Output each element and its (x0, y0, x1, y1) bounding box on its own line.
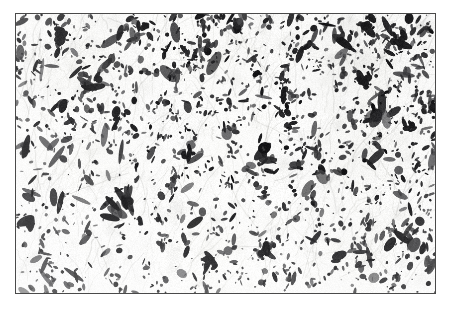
figure-root: Pale fibrillary spindle-cell tissue with… (0, 0, 450, 313)
micrograph-frame (15, 13, 436, 294)
micrograph-image (16, 14, 435, 293)
